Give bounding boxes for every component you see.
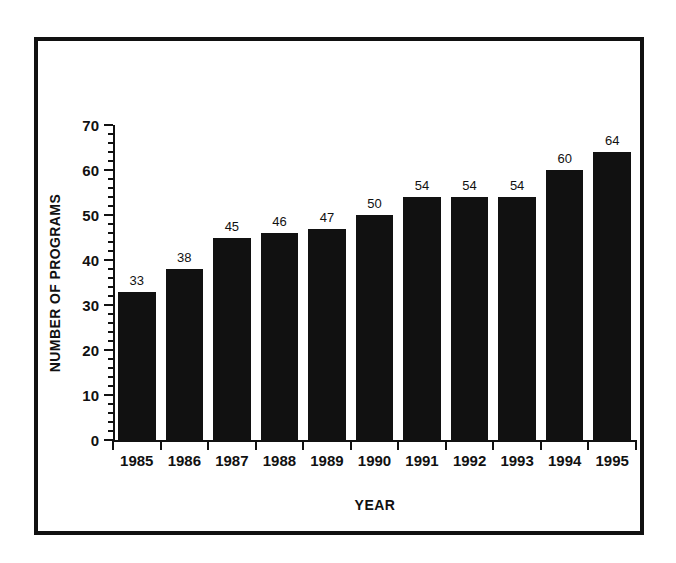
bar xyxy=(213,238,251,441)
y-axis-major-tick xyxy=(104,214,113,216)
x-axis-tick xyxy=(302,440,304,450)
x-axis-tick xyxy=(160,440,162,450)
x-axis-tick-label: 1988 xyxy=(263,452,296,469)
x-axis-tick xyxy=(207,440,209,450)
bar-value-label: 38 xyxy=(177,250,191,265)
chart-figure: NUMBER OF PROGRAMS 010203040506070 19851… xyxy=(0,0,676,563)
x-axis-tick xyxy=(350,440,352,450)
x-axis-line xyxy=(113,440,637,442)
y-axis-tick-label: 20 xyxy=(0,342,99,359)
bar-value-label: 54 xyxy=(462,178,476,193)
y-axis-major-tick xyxy=(104,394,113,396)
bar-value-label: 64 xyxy=(605,133,619,148)
x-axis-tick xyxy=(492,440,494,450)
bar-value-label: 54 xyxy=(415,178,429,193)
x-axis-tick-label: 1987 xyxy=(215,452,248,469)
bar xyxy=(546,170,584,440)
y-axis-major-tick xyxy=(104,169,113,171)
x-axis-tick-label: 1985 xyxy=(120,452,153,469)
bar xyxy=(308,229,346,441)
y-axis-tick-label: 10 xyxy=(0,387,99,404)
x-axis-tick xyxy=(635,440,637,450)
x-axis-tick-label: 1993 xyxy=(500,452,533,469)
x-axis-tick-label: 1992 xyxy=(453,452,486,469)
y-axis-major-tick xyxy=(104,259,113,261)
y-axis-major-tick xyxy=(104,124,113,126)
x-axis-tick-label: 1991 xyxy=(405,452,438,469)
x-axis-tick xyxy=(112,440,114,450)
x-axis-tick-label: 1986 xyxy=(168,452,201,469)
y-axis-major-tick xyxy=(104,304,113,306)
bar xyxy=(451,197,489,440)
y-axis-tick-label: 30 xyxy=(0,297,99,314)
y-axis-tick-label: 60 xyxy=(0,162,99,179)
x-axis-tick xyxy=(397,440,399,450)
x-axis-tick-label: 1995 xyxy=(596,452,629,469)
plot-area xyxy=(113,125,636,440)
bar xyxy=(593,152,631,440)
bar xyxy=(118,292,156,441)
x-axis-title: YEAR xyxy=(113,497,637,513)
bar-value-label: 33 xyxy=(130,273,144,288)
bar-value-label: 54 xyxy=(510,178,524,193)
bar xyxy=(356,215,394,440)
bar xyxy=(498,197,536,440)
x-axis-tick xyxy=(255,440,257,450)
bar xyxy=(403,197,441,440)
bar xyxy=(166,269,204,440)
bar-value-label: 46 xyxy=(272,214,286,229)
x-axis-tick xyxy=(445,440,447,450)
y-axis-tick-label: 40 xyxy=(0,252,99,269)
y-axis-tick-label: 50 xyxy=(0,207,99,224)
bar-value-label: 60 xyxy=(557,151,571,166)
x-axis-tick xyxy=(587,440,589,450)
x-axis-tick xyxy=(540,440,542,450)
bar-value-label: 50 xyxy=(367,196,381,211)
y-axis-tick-label: 0 xyxy=(0,432,99,449)
bar-value-label: 45 xyxy=(225,219,239,234)
x-axis-tick-label: 1990 xyxy=(358,452,391,469)
x-axis-tick-label: 1994 xyxy=(548,452,581,469)
bar-value-label: 47 xyxy=(320,210,334,225)
y-axis-major-tick xyxy=(104,349,113,351)
x-axis-tick-label: 1989 xyxy=(310,452,343,469)
bar xyxy=(261,233,299,440)
y-axis-tick-label: 70 xyxy=(0,117,99,134)
